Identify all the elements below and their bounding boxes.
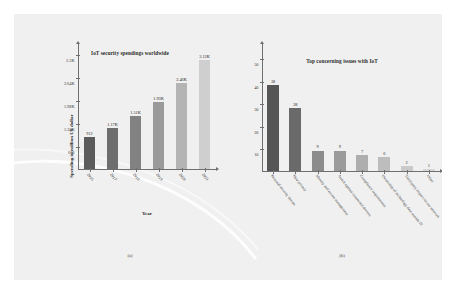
x-tick-label: Other [426, 174, 435, 183]
bar-slot: 1.93K [153, 50, 164, 169]
bar [176, 83, 187, 169]
bar [289, 108, 301, 171]
x-tick-mark [113, 168, 114, 172]
bar-value-label: 1.17K [107, 122, 118, 127]
bar [153, 102, 164, 169]
figure-background-panel: IoT security spendings worldwide Spendin… [14, 14, 442, 280]
y-tick-label: 40 [254, 84, 262, 89]
bar-slot: 3.12K [199, 50, 210, 169]
y-tick-label: 660 [68, 150, 78, 155]
bar-value-label: 1 [428, 163, 430, 168]
bar-slot: 912 [84, 50, 95, 169]
x-tick-mark [318, 170, 319, 174]
figure-container: IoT security spendings worldwide Spendin… [0, 0, 456, 298]
y-tick-mark [76, 78, 80, 79]
bar-value-label: 2.46K [176, 77, 187, 82]
x-tick-mark [295, 170, 296, 174]
bar-slot: 1.17K [107, 50, 118, 169]
x-tick-mark [384, 170, 385, 174]
chart-a-plot-area: 9121.17K1.51K1.93K2.46K3.12K 6601.32K1.9… [78, 50, 216, 170]
x-tick-label: 2017 [109, 172, 118, 182]
chart-b-x-axis [262, 171, 440, 172]
bar-slot: 7 [356, 50, 368, 171]
bar-value-label: 9 [339, 144, 341, 149]
y-tick-label: 10 [254, 152, 262, 157]
bar-slot: 28 [289, 50, 301, 171]
bar-value-label: 6 [383, 151, 385, 156]
bar [267, 85, 279, 171]
chart-panel-a: IoT security spendings worldwide Spendin… [32, 28, 228, 264]
bar-value-label: 2 [406, 160, 408, 165]
y-tick-label: 1.32K [64, 127, 78, 132]
y-tick-label: 1.98K [64, 104, 78, 109]
bar-slot: 1.51K [130, 50, 141, 169]
x-tick-mark [407, 170, 408, 174]
y-tick-label: 2.64K [64, 81, 78, 86]
x-tick-label: 2021 [201, 172, 210, 182]
y-tick-mark [76, 147, 80, 148]
x-tick-label: 2018 [132, 172, 141, 182]
y-tick-mark [260, 127, 264, 128]
x-tick-mark [159, 168, 160, 172]
x-tick-label: 2016 [86, 172, 95, 182]
chart-a-bars: 9121.17K1.51K1.93K2.46K3.12K [78, 50, 216, 169]
chart-panel-b: Top concerning issues with IoT 382899762… [228, 28, 442, 264]
x-tick-mark [273, 170, 274, 174]
bar [334, 151, 346, 171]
bar-slot: 2.46K [176, 50, 187, 169]
chart-a-x-axis [78, 169, 216, 170]
bar-slot: 6 [378, 50, 390, 171]
x-tick-label: Personal security threats [270, 174, 297, 206]
y-tick-label: 30 [254, 107, 262, 112]
x-tick-mark [362, 170, 363, 174]
bar [107, 128, 118, 169]
y-tick-mark [260, 149, 264, 150]
y-tick-mark [260, 82, 264, 83]
bar-slot: 1 [423, 50, 435, 171]
y-tick-mark [260, 104, 264, 105]
bar [130, 116, 141, 169]
y-tick-mark [260, 59, 264, 60]
bar-value-label: 912 [86, 131, 92, 136]
bar-value-label: 38 [271, 79, 275, 84]
y-tick-mark [76, 124, 80, 125]
x-tick-mark [205, 168, 206, 172]
x-tick-mark [340, 170, 341, 174]
bar [199, 60, 210, 169]
bar [84, 137, 95, 169]
x-tick-label: 2019 [155, 172, 164, 182]
bar [312, 151, 324, 171]
y-tick-label: 3.3K [66, 58, 78, 63]
x-tick-label: Ownership of technology data outside IT [381, 174, 423, 227]
chart-a-y-axis-label: Spending in million US dollar [69, 114, 74, 177]
bar-value-label: 1.51K [130, 110, 141, 115]
y-tick-mark [76, 101, 80, 102]
bar-value-label: 7 [361, 149, 363, 154]
x-tick-mark [429, 170, 430, 174]
y-tick-mark [76, 55, 80, 56]
bar [356, 155, 368, 171]
x-tick-mark [136, 168, 137, 172]
y-tick-label: 50 [254, 62, 262, 67]
bar-slot: 9 [312, 50, 324, 171]
x-tick-label: 2020 [178, 172, 187, 182]
y-tick-label: 20 [254, 129, 262, 134]
bar-value-label: 9 [317, 144, 319, 149]
chart-a-x-axis-label: Year [78, 211, 216, 216]
bar-slot: 9 [334, 50, 346, 171]
x-tick-mark [90, 168, 91, 172]
chart-a-subcaption: (a) [32, 253, 228, 258]
chart-b-subcaption: (b) [228, 253, 442, 258]
bar-value-label: 1.93K [153, 96, 164, 101]
bar-value-label: 3.12K [199, 54, 210, 59]
bar-value-label: 28 [293, 102, 297, 107]
x-tick-mark [182, 168, 183, 172]
bar-slot: 2 [401, 50, 413, 171]
chart-b-plot-area: 3828997621 1020304050 Personal security … [262, 50, 440, 172]
x-tick-label: Data privacy [292, 174, 307, 192]
bar-slot: 38 [267, 50, 279, 171]
chart-b-bars: 3828997621 [262, 50, 440, 171]
